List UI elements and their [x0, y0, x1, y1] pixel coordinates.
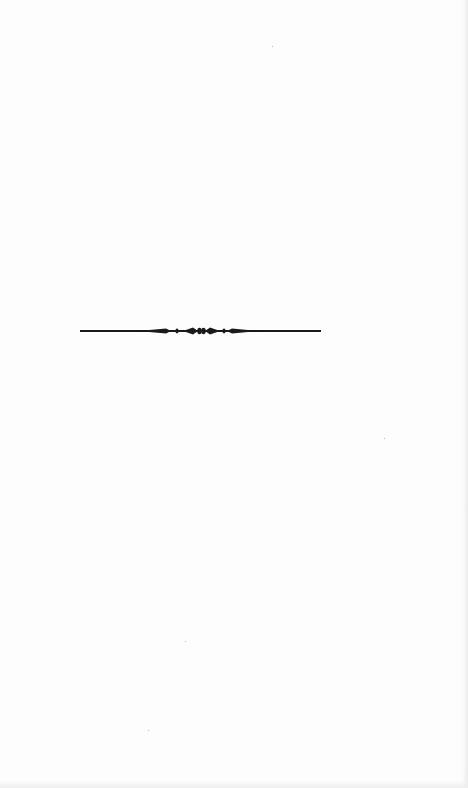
book-page — [0, 0, 468, 788]
paper-speck — [185, 641, 186, 642]
paper-speck — [384, 438, 385, 439]
ornamental-divider-icon — [78, 323, 324, 339]
page-edge-shadow — [462, 0, 468, 788]
paper-speck — [148, 730, 149, 731]
page-bottom-shadow — [0, 780, 468, 788]
paper-speck — [272, 46, 273, 47]
